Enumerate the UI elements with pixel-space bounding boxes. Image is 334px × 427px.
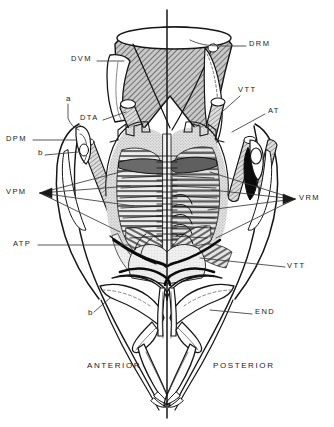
label-anterior: ANTERIOR bbox=[87, 362, 141, 370]
anatomical-figure: DRM DVM VTT a AT DTA DPM b VPM VRM ATP V… bbox=[0, 0, 334, 427]
label-vtt-upper: VTT bbox=[238, 86, 256, 94]
label-posterior: POSTERIOR bbox=[213, 362, 275, 370]
label-dta: DTA bbox=[80, 114, 99, 122]
label-b-lower: b bbox=[88, 309, 92, 317]
label-vtt-lower: VTT bbox=[287, 262, 305, 270]
label-at: AT bbox=[268, 107, 280, 115]
label-b-upper: b bbox=[38, 149, 42, 157]
label-a: a bbox=[66, 95, 70, 103]
label-end: END bbox=[255, 308, 275, 316]
label-atp: ATP bbox=[13, 240, 31, 248]
label-drm: DRM bbox=[249, 40, 270, 48]
label-dvm: DVM bbox=[71, 55, 92, 63]
label-vpm: VPM bbox=[6, 188, 26, 196]
label-vrm: VRM bbox=[299, 194, 320, 202]
label-dpm: DPM bbox=[6, 135, 27, 143]
figure-drawing bbox=[0, 0, 334, 427]
